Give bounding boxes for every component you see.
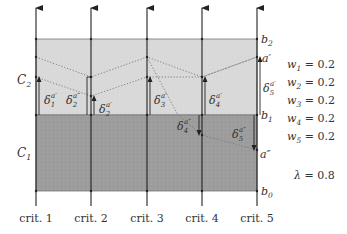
crit-label-2: crit. 2 [74,212,107,225]
weight-w1: w1 = 0.2 [287,58,335,73]
weight-w4: w4 = 0.2 [287,112,335,127]
boundary-label-b1: b1 [261,109,273,124]
category-label-c1: C1 [17,146,31,162]
crit-label-1: crit. 1 [19,212,52,225]
boundary-label-b0: b0 [261,185,273,200]
weight-w3: w3 = 0.2 [287,94,335,109]
boundary-label-b2: b2 [261,33,273,48]
weight-w5: w5 = 0.2 [287,130,335,145]
alt-label-a-prime: a′ [262,52,272,65]
lambda-value: λ = 0.8 [293,169,335,182]
crit-label-3: crit. 3 [130,212,163,225]
weights-list: w1 = 0.2 w2 = 0.2 w3 = 0.2 w4 = 0.2 w5 =… [287,58,335,182]
alt-label-a-double-prime: a″ [260,148,272,161]
sorting-diagram: C2 C1 b2 b1 b0 a′ a″ δ1a′ δ2a″ δ2a′ δ3a′… [0,0,347,234]
crit-label-4: crit. 4 [185,212,218,225]
criterion-labels: crit. 1 crit. 2 crit. 3 crit. 4 crit. 5 [19,212,273,225]
category-label-c2: C2 [17,73,31,89]
delta-5-a-prime: δ5a′ [263,80,276,97]
crit-label-5: crit. 5 [240,212,273,225]
weight-w2: w2 = 0.2 [287,76,335,91]
